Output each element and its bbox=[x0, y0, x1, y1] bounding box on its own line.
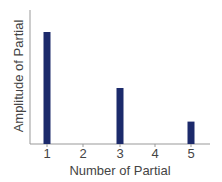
x-tick-label: 1 bbox=[43, 146, 50, 161]
bar-chart: Amplitude of Partial Number of Partial 1… bbox=[0, 0, 222, 182]
bar-partial-3 bbox=[117, 88, 124, 144]
y-axis-label: Amplitude of Partial bbox=[11, 20, 26, 133]
bar-partial-5 bbox=[188, 122, 195, 144]
x-tick-label: 3 bbox=[116, 146, 123, 161]
x-tick-label: 2 bbox=[79, 146, 86, 161]
x-axis-label: Number of Partial bbox=[69, 163, 170, 178]
bars bbox=[44, 32, 195, 144]
x-tick-label: 4 bbox=[151, 146, 158, 161]
x-tick-label: 5 bbox=[187, 146, 194, 161]
bar-partial-1 bbox=[44, 32, 51, 144]
